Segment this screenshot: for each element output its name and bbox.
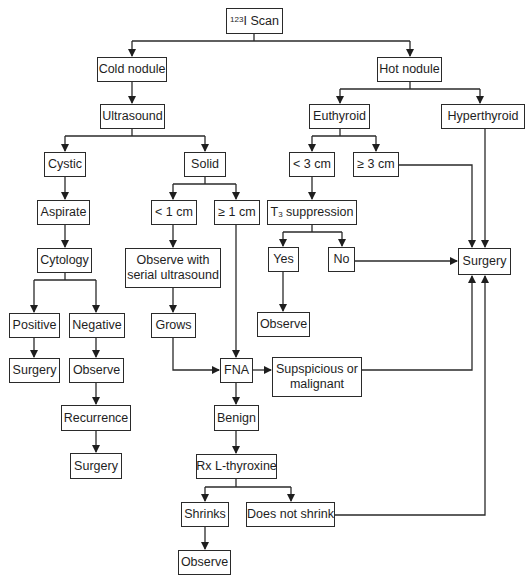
node-ge-3cm: ≥ 3 cm xyxy=(353,152,399,177)
node-less-3cm: < 3 cm xyxy=(289,152,335,177)
node-no: No xyxy=(328,247,355,272)
node-hyperthyroid: Hyperthyroid xyxy=(441,104,525,129)
node-negative: Negative xyxy=(69,313,125,338)
node-less-1cm: < 1 cm xyxy=(151,200,197,225)
node-observe-yes: Observe xyxy=(257,312,310,337)
node-observe-serial-ultrasound: Observe with serial ultrasound xyxy=(125,248,221,288)
node-hot-nodule: Hot nodule xyxy=(377,57,442,82)
node-surgery-recurrence: Surgery xyxy=(70,453,122,479)
node-observe-negative: Observe xyxy=(69,358,124,383)
node-positive: Positive xyxy=(9,313,60,338)
node-observe-shrinks: Observe xyxy=(178,550,231,575)
node-surgery-positive: Surgery xyxy=(9,358,60,383)
node-fna: FNA xyxy=(220,358,253,383)
node-aspirate: Aspirate xyxy=(37,200,90,225)
node-ge-1cm: ≥ 1 cm xyxy=(214,200,260,225)
node-ultrasound: Ultrasound xyxy=(100,104,165,129)
node-cytology: Cytology xyxy=(37,248,92,273)
node-rx-l-thyroxine: Rx L-thyroxine xyxy=(196,454,277,479)
node-iodine-scan: 123I Scan xyxy=(226,8,283,34)
node-solid: Solid xyxy=(184,152,226,177)
node-surgery-main: Surgery xyxy=(458,248,511,275)
node-cold-nodule: Cold nodule xyxy=(97,57,167,82)
node-suspicious-malignant: Supspicious or malignant xyxy=(272,357,362,397)
node-does-not-shrink: Does not shrink xyxy=(246,502,335,527)
node-shrinks: Shrinks xyxy=(181,502,229,527)
connector-lines xyxy=(0,0,529,583)
node-yes: Yes xyxy=(268,247,299,272)
node-euthyroid: Euthyroid xyxy=(309,104,370,129)
node-grows: Grows xyxy=(151,313,196,338)
node-cystic: Cystic xyxy=(44,152,86,177)
node-benign: Benign xyxy=(214,405,259,431)
node-recurrence: Recurrence xyxy=(61,405,131,431)
node-t3-suppression: T3 suppression xyxy=(267,200,357,225)
